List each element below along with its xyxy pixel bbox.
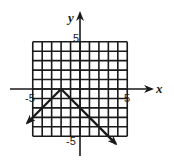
x-max-tick-label: 5 [124,92,130,104]
y-min-tick-label: -5 [66,135,76,147]
y-max-tick-label: 5 [73,32,79,44]
coordinate-plane-chart: x y -5 5 5 -5 [0,0,174,168]
axes [10,13,152,156]
y-axis-label: y [66,10,74,25]
x-min-tick-label: -5 [25,92,35,104]
x-axis-label: x [155,81,163,96]
